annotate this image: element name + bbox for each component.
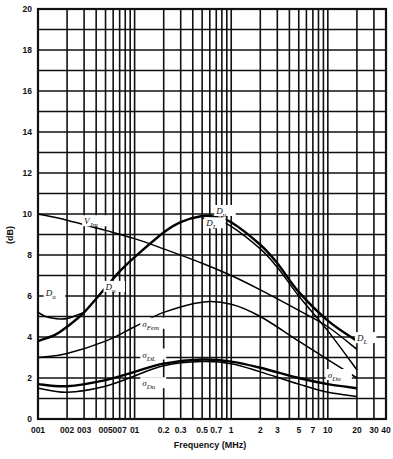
curve--fem (38, 302, 357, 378)
y-tick-label: 4 (27, 332, 32, 342)
y-tick-label: 0 (27, 414, 32, 424)
y-tick-label: 12 (23, 168, 33, 178)
x-tick-label: 003 (77, 425, 91, 435)
x-tick-label: 20 (352, 425, 362, 435)
x-tick-label: 0.3 (175, 425, 187, 435)
x-tick-label: 30 (369, 425, 379, 435)
y-axis-tick-labels: 02468101214161820 (23, 4, 33, 424)
y-tick-label: 2 (27, 373, 32, 383)
x-axis-tick-labels: 001002003005007010.20.30.50.712357102030… (31, 425, 391, 435)
x-tick-label: 01 (130, 425, 140, 435)
x-tick-label: 0.7 (210, 425, 222, 435)
x-tick-label: 0.2 (158, 425, 170, 435)
y-tick-label: 18 (23, 45, 33, 55)
x-tick-label: 002 (60, 425, 74, 435)
chart-curves (38, 214, 357, 396)
x-tick-label: 7 (311, 425, 316, 435)
y-tick-label: 14 (23, 127, 33, 137)
x-tick-label: 10 (323, 425, 333, 435)
x-tick-label: 3 (275, 425, 280, 435)
x-tick-label: 001 (31, 425, 45, 435)
x-tick-label: 40 (381, 425, 391, 435)
x-tick-label: 1 (229, 425, 234, 435)
x-tick-label: 5 (296, 425, 301, 435)
y-tick-label: 20 (23, 4, 33, 14)
y-tick-label: 16 (23, 86, 33, 96)
y-tick-label: 10 (23, 209, 33, 219)
x-axis-title: Frequency (MHz) (174, 440, 247, 450)
curve--dl (38, 359, 357, 388)
y-axis-title: (dB) (5, 226, 15, 244)
y-tick-label: 8 (27, 250, 32, 260)
curve-d-l (202, 218, 357, 370)
x-tick-label: 0.5 (196, 425, 208, 435)
y-tick-label: 6 (27, 291, 32, 301)
x-tick-label: 007 (113, 425, 127, 435)
noise-figure-chart: 02468101214161820 001002003005007010.20.… (0, 0, 393, 459)
curve--du (38, 362, 357, 397)
x-tick-label: 005 (98, 425, 112, 435)
x-tick-label: 2 (258, 425, 263, 435)
chart-grid (38, 9, 386, 419)
